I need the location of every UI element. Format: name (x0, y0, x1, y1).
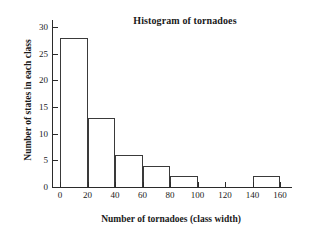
x-axis-tick-label: 160 (265, 190, 295, 200)
plot-area: 020406080100120140160 051015202530 (0, 0, 322, 234)
y-axis-tick (53, 107, 58, 108)
x-axis-tick-label: 100 (183, 190, 213, 200)
histogram-bar (170, 176, 198, 187)
y-axis-line (52, 20, 53, 188)
histogram-bar (253, 176, 281, 187)
x-axis-tick-label: 60 (128, 190, 158, 200)
x-axis-tick (280, 182, 281, 187)
x-axis-tick-label: 20 (73, 190, 103, 200)
x-axis-tick (115, 182, 116, 187)
y-axis-tick (53, 160, 58, 161)
x-axis-tick-label: 0 (45, 190, 75, 200)
y-axis-tick (53, 27, 58, 28)
histogram-bar (88, 118, 116, 187)
y-axis-tick (53, 134, 58, 135)
x-axis-tick-label: 140 (238, 190, 268, 200)
x-axis-tick (198, 182, 199, 187)
histogram-bar (60, 38, 88, 187)
histogram-bar (115, 155, 143, 187)
x-axis-tick-label: 120 (210, 190, 240, 200)
histogram-bar (143, 166, 171, 187)
x-axis-label: Number of tornadoes (class width) (36, 214, 306, 224)
y-axis-tick (53, 54, 58, 55)
x-axis-tick (225, 182, 226, 187)
x-axis-tick-label: 80 (155, 190, 185, 200)
x-axis-tick (170, 182, 171, 187)
y-axis-label: Number of states in each class (23, 10, 33, 190)
x-axis-tick (60, 182, 61, 187)
histogram-chart: Histogram of tornadoes 02040608010012014… (0, 0, 322, 234)
x-axis-tick (88, 182, 89, 187)
x-axis-tick (253, 182, 254, 187)
x-axis-tick-label: 40 (100, 190, 130, 200)
x-axis-tick (143, 182, 144, 187)
x-axis-line (52, 187, 292, 188)
y-axis-tick (53, 80, 58, 81)
y-axis-tick (53, 187, 58, 188)
